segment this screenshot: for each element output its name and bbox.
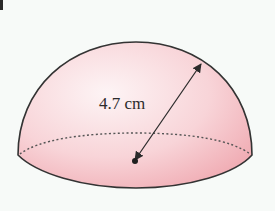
- radius-label: 4.7 cm: [99, 94, 145, 113]
- center-point: [132, 158, 138, 164]
- corner-mark: [0, 0, 3, 10]
- hemisphere-diagram: 4.7 cm: [0, 0, 275, 211]
- hemisphere-surface: [18, 42, 252, 188]
- hemisphere-figure: 4.7 cm: [0, 0, 275, 211]
